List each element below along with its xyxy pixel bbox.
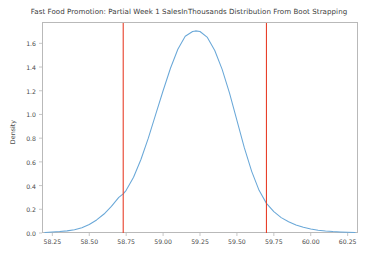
y-tick-label: 0.6 [6, 158, 36, 165]
axis-ticks [39, 43, 348, 236]
confidence-bound-lines [123, 23, 266, 233]
chart-canvas [0, 0, 378, 257]
y-tick-label: 0.4 [6, 182, 36, 189]
y-tick-label: 1.6 [6, 40, 36, 47]
y-tick-label: 1.2 [6, 87, 36, 94]
y-tick-label: 0.0 [6, 230, 36, 237]
x-tick-label: 60.25 [326, 238, 370, 245]
y-tick-label: 1.4 [6, 64, 36, 71]
y-tick-label: 0.8 [6, 135, 36, 142]
y-tick-label: 0.2 [6, 206, 36, 213]
figure: Fast Food Promotion: Partial Week 1 Sale… [0, 0, 378, 257]
density-curve [45, 31, 355, 233]
y-tick-label: 1.0 [6, 111, 36, 118]
density-curve-group [45, 31, 355, 233]
